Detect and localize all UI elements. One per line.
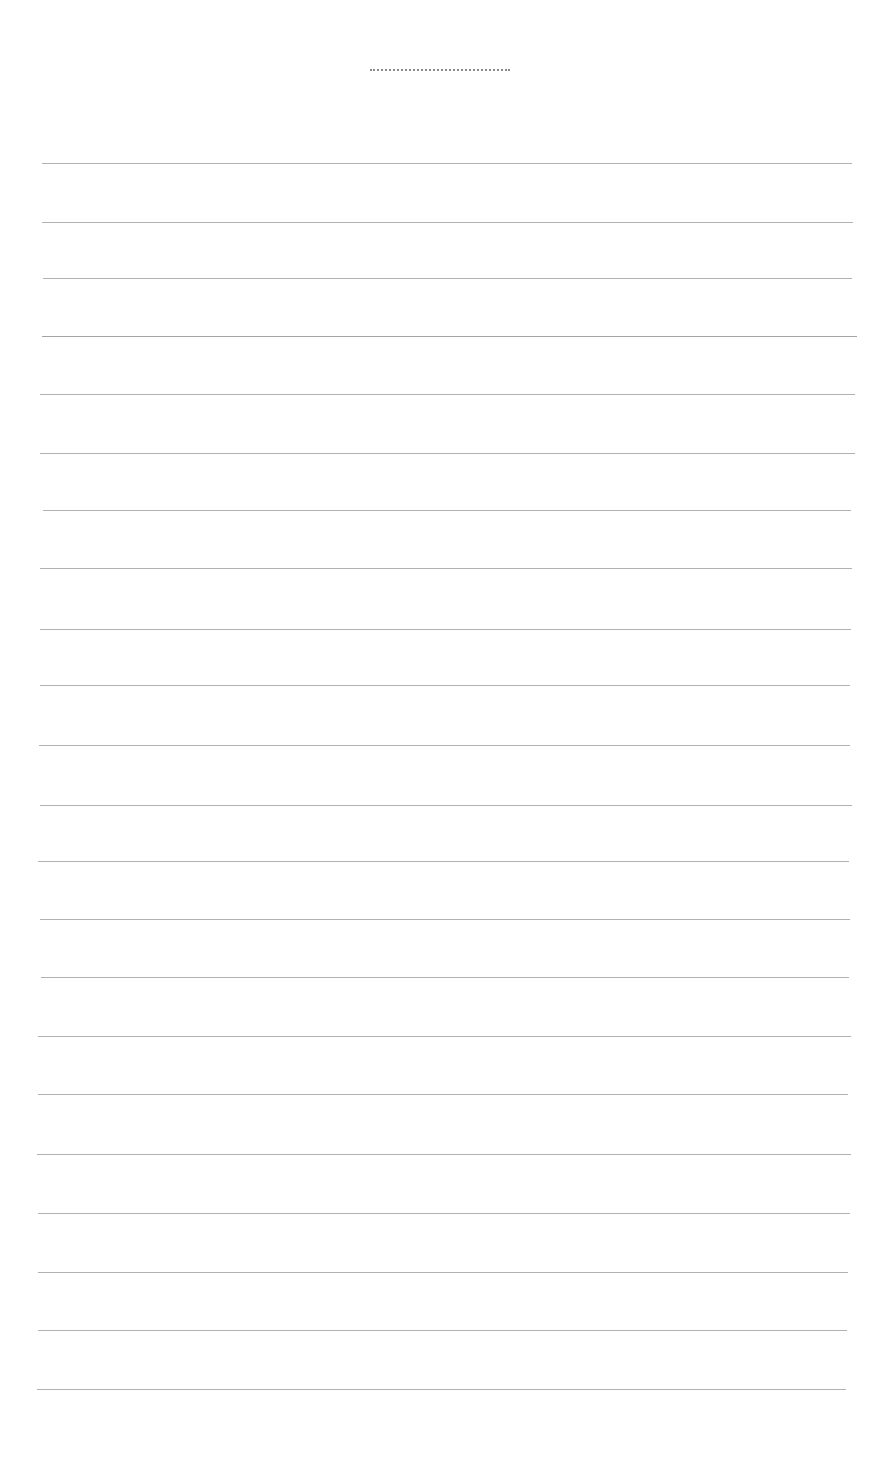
ruled-line [40, 685, 850, 686]
ruled-line [39, 745, 850, 746]
ruled-line [38, 1272, 848, 1273]
ruled-line [38, 1330, 847, 1331]
ruled-line [43, 510, 851, 511]
title-line [370, 69, 510, 71]
ruled-line [42, 222, 853, 223]
ruled-line [40, 394, 855, 395]
ruled-line [38, 1213, 850, 1214]
ruled-line [40, 629, 851, 630]
ruled-line [38, 861, 849, 862]
ruled-line [42, 336, 857, 337]
ruled-line [40, 805, 852, 806]
ruled-line [40, 453, 855, 454]
ruled-line [42, 163, 852, 164]
ruled-line [37, 1389, 846, 1390]
lined-paper-page [0, 0, 882, 1462]
ruled-line [41, 977, 849, 978]
ruled-line [37, 1154, 851, 1155]
ruled-line [38, 1094, 848, 1095]
ruled-line [40, 568, 852, 569]
ruled-line [43, 278, 852, 279]
ruled-line [38, 1036, 851, 1037]
ruled-line [40, 919, 850, 920]
